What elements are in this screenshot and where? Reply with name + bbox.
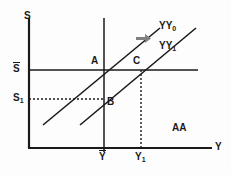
yy0-base: YY <box>159 20 172 31</box>
yy1-curve <box>80 28 196 125</box>
s1-base: S <box>13 92 20 103</box>
point-c-label: C <box>133 56 140 66</box>
aa-region-label: AA <box>172 123 186 133</box>
y-bar-text: Y <box>99 151 106 162</box>
yy0-curve <box>43 28 160 125</box>
y1-base: Y <box>135 151 142 162</box>
s-bar-label: S <box>13 64 20 74</box>
y-axis-label: S <box>24 11 31 21</box>
aa-yy-curve-diagram: S Y S S1 Y Y1 YY0 YY1 A B C AA <box>0 0 231 175</box>
point-b-label: B <box>107 97 114 107</box>
y1-label: Y1 <box>135 152 146 162</box>
y1-subscript: 1 <box>142 156 146 163</box>
yy0-subscript: 0 <box>172 25 176 32</box>
yy1-curve-label: YY1 <box>159 41 176 51</box>
yy1-subscript: 1 <box>172 45 176 52</box>
s-bar-text: S <box>13 63 20 74</box>
x-axis-label: Y <box>215 142 222 152</box>
yy1-base: YY <box>159 40 172 51</box>
yy0-curve-label: YY0 <box>159 21 176 31</box>
s1-subscript: 1 <box>20 97 24 104</box>
point-a-label: A <box>91 56 98 66</box>
s1-label: S1 <box>13 93 24 103</box>
diagram-canvas <box>0 0 231 175</box>
y-bar-label: Y <box>99 152 106 162</box>
